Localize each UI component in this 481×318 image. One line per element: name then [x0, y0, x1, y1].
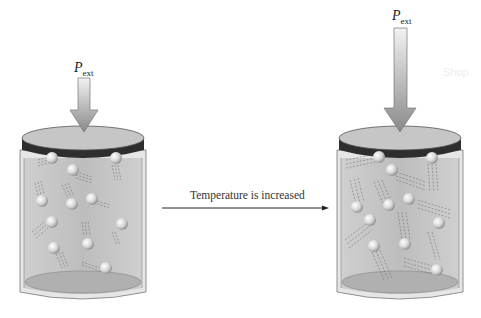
right-pressure-arrow-icon: [384, 28, 416, 132]
pressure-subscript: ext: [401, 16, 412, 26]
left-pressure-arrow-icon: [70, 78, 98, 132]
transition-label: Temperature is increased: [190, 189, 305, 201]
transition-arrow-icon: [162, 206, 329, 211]
pressure-symbol: P: [392, 8, 401, 23]
pressure-subscript: ext: [83, 68, 94, 78]
right-pressure-label: Pext: [392, 8, 412, 26]
pressure-symbol: P: [74, 60, 83, 75]
left-pressure-label: Pext: [74, 60, 94, 78]
figure: Pext Pext Temperature is increased Shop: [0, 0, 481, 318]
left-cylinder: [20, 126, 146, 299]
watermark: Shop: [443, 66, 469, 78]
